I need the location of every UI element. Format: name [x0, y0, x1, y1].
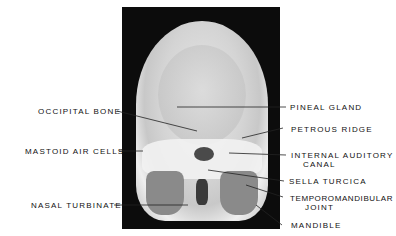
label-occipital-bone: OCCIPITAL BONE	[38, 107, 121, 116]
label-pineal-gland: PINEAL GLAND	[290, 103, 362, 112]
label-temporomandibular-joint-line1: TEMPOROMANDIBULAR	[290, 194, 393, 203]
label-internal-auditory-canal-line1: INTERNAL AUDITORY	[291, 151, 394, 160]
label-mandible: MANDIBLE	[291, 221, 342, 230]
label-nasal-turbinate: NASAL TURBINATE	[31, 201, 122, 210]
leader-temporomandibular-joint	[246, 185, 283, 197]
leader-internal-auditory-canal	[229, 153, 286, 155]
label-internal-auditory-canal-line2: CANAL	[303, 160, 336, 169]
leader-sella-turcica	[208, 170, 284, 181]
leader-petrous-ridge	[242, 128, 283, 138]
label-temporomandibular-joint-line2: JOINT	[305, 203, 334, 212]
leader-occipital-bone	[117, 111, 197, 131]
label-sella-turcica: SELLA TURCICA	[289, 177, 367, 186]
label-petrous-ridge: PETROUS RIDGE	[291, 125, 373, 134]
label-mastoid-air-cells: MASTOID AIR CELLS	[25, 147, 124, 156]
leader-mandible	[256, 205, 282, 225]
